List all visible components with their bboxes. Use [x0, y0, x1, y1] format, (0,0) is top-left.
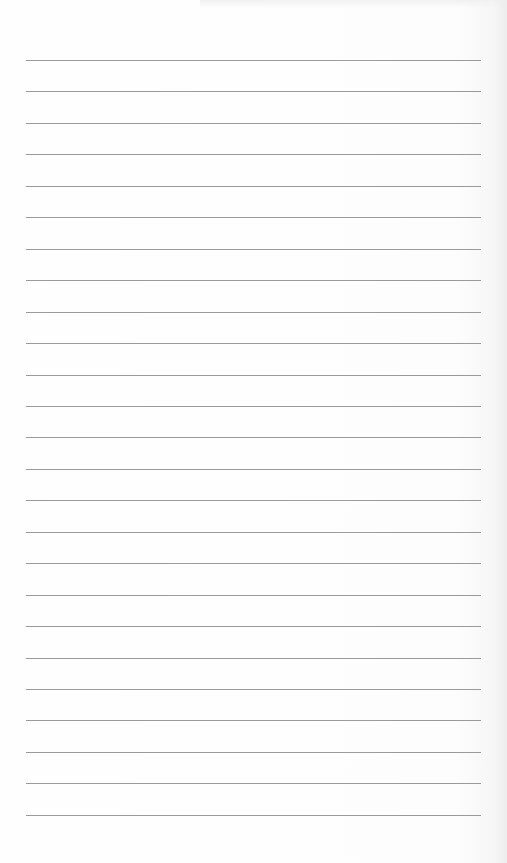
ruled-line [26, 500, 481, 501]
paper-shadow-top [200, 0, 507, 8]
ruled-line [26, 60, 481, 61]
ruled-line [26, 249, 481, 250]
ruled-line [26, 186, 481, 187]
ruled-line [26, 783, 481, 784]
ruled-line [26, 658, 481, 659]
ruled-line [26, 626, 481, 627]
ruled-line [26, 217, 481, 218]
ruled-line [26, 752, 481, 753]
ruled-line [26, 437, 481, 438]
ruled-line [26, 375, 481, 376]
lined-paper-page [0, 0, 507, 863]
ruled-line [26, 469, 481, 470]
ruled-line [26, 720, 481, 721]
ruled-line [26, 406, 481, 407]
ruled-line [26, 123, 481, 124]
ruled-line [26, 563, 481, 564]
ruled-line [26, 154, 481, 155]
ruled-line [26, 689, 481, 690]
ruled-line [26, 595, 481, 596]
ruled-line [26, 343, 481, 344]
ruled-line [26, 532, 481, 533]
paper-shadow-right [495, 0, 507, 863]
ruled-line [26, 312, 481, 313]
ruled-line [26, 91, 481, 92]
ruled-line [26, 815, 481, 816]
ruled-line [26, 280, 481, 281]
